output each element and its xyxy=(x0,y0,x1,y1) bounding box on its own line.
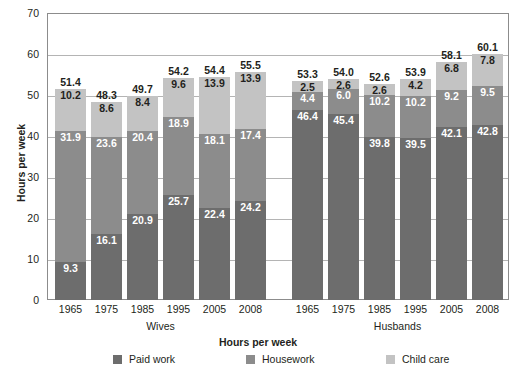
segment-housework: 20.4 xyxy=(127,131,158,215)
segment-value: 9.6 xyxy=(171,78,186,90)
segment-value: 10.2 xyxy=(60,89,80,101)
segment-child-care: 8.4 xyxy=(127,96,158,130)
segment-housework: 31.9 xyxy=(55,131,86,262)
legend-item-paid-work: Paid work xyxy=(113,353,175,365)
segment-value: 18.9 xyxy=(168,117,188,129)
segment-value: 13.9 xyxy=(240,72,260,84)
legend-label-child-care: Child care xyxy=(402,353,449,365)
segment-paid-work: 45.4 xyxy=(328,114,359,300)
bar-husbands-2008: 42.89.57.860.1 xyxy=(472,54,503,300)
segment-child-care: 13.9 xyxy=(199,77,230,134)
bar-total-label: 49.7 xyxy=(121,83,164,95)
segment-value: 25.7 xyxy=(168,195,188,207)
segment-paid-work: 20.9 xyxy=(127,214,158,300)
segment-value: 8.4 xyxy=(135,96,150,108)
legend: Paid work Housework Child care xyxy=(0,352,516,370)
segment-child-care: 7.8 xyxy=(472,54,503,86)
segment-value: 10.2 xyxy=(369,95,389,107)
segment-paid-work: 16.1 xyxy=(91,234,122,300)
segment-child-care: 10.2 xyxy=(55,89,86,131)
x-tick-wives-1985: 1985 xyxy=(124,303,161,315)
segment-value: 17.4 xyxy=(240,129,260,141)
bar-wives-1995: 25.718.99.654.2 xyxy=(163,78,194,300)
legend-item-housework: Housework xyxy=(246,353,315,365)
x-tick-wives-1965: 1965 xyxy=(52,303,89,315)
segment-housework: 6.0 xyxy=(328,89,359,114)
segment-paid-work: 42.8 xyxy=(472,125,503,300)
legend-label-paid-work: Paid work xyxy=(129,353,175,365)
legend-swatch-child-care xyxy=(386,355,395,364)
legend-swatch-paid-work xyxy=(113,355,122,364)
bar-wives-1965: 9.331.910.251.4 xyxy=(55,89,86,300)
segment-value: 7.8 xyxy=(480,54,495,66)
segment-child-care: 9.6 xyxy=(163,78,194,117)
legend-label-housework: Housework xyxy=(262,353,315,365)
segment-housework: 9.2 xyxy=(436,90,467,128)
x-tick-husbands-2005: 2005 xyxy=(433,303,470,315)
x-tick-husbands-1975: 1975 xyxy=(325,303,362,315)
segment-value: 2.5 xyxy=(300,81,315,93)
segment-value: 20.4 xyxy=(132,131,152,143)
chart-title: Hours per week xyxy=(0,336,516,348)
legend-swatch-housework xyxy=(246,355,255,364)
segment-paid-work: 39.5 xyxy=(400,138,431,300)
segment-value: 42.8 xyxy=(477,125,497,137)
segment-value: 45.4 xyxy=(333,114,353,126)
segment-value: 10.2 xyxy=(405,96,425,108)
bar-husbands-1975: 45.46.02.654.0 xyxy=(328,79,359,300)
group-label-husbands: Husbands xyxy=(282,320,513,332)
bar-wives-1975: 16.123.68.648.3 xyxy=(91,102,122,300)
x-tick-husbands-1965: 1965 xyxy=(289,303,326,315)
x-tick-husbands-1985: 1985 xyxy=(361,303,398,315)
x-tick-husbands-2008: 2008 xyxy=(469,303,506,315)
segment-child-care: 4.2 xyxy=(400,79,431,96)
segment-value: 8.6 xyxy=(99,102,114,114)
bar-husbands-2005: 42.19.26.858.1 xyxy=(436,62,467,300)
segment-housework: 10.2 xyxy=(400,96,431,138)
legend-item-child-care: Child care xyxy=(386,353,449,365)
segment-child-care: 2.6 xyxy=(328,79,359,90)
segment-paid-work: 46.4 xyxy=(292,110,323,300)
segment-value: 18.1 xyxy=(204,134,224,146)
segment-child-care: 8.6 xyxy=(91,102,122,137)
x-tick-husbands-1995: 1995 xyxy=(397,303,434,315)
segment-value: 39.8 xyxy=(369,137,389,149)
group-label-wives: Wives xyxy=(45,320,276,332)
segment-child-care: 13.9 xyxy=(235,72,266,129)
bar-total-label: 55.5 xyxy=(229,59,272,71)
x-tick-wives-1995: 1995 xyxy=(160,303,197,315)
segment-value: 16.1 xyxy=(96,234,116,246)
bar-wives-2005: 22.418.113.954.4 xyxy=(199,77,230,300)
segment-paid-work: 9.3 xyxy=(55,262,86,300)
x-tick-wives-1975: 1975 xyxy=(88,303,125,315)
x-tick-wives-2008: 2008 xyxy=(232,303,269,315)
bar-husbands-1995: 39.510.24.253.9 xyxy=(400,79,431,300)
segment-value: 6.8 xyxy=(444,62,459,74)
segment-value: 6.0 xyxy=(336,89,351,101)
segment-housework: 17.4 xyxy=(235,129,266,200)
segment-housework: 18.9 xyxy=(163,117,194,194)
segment-child-care: 2.5 xyxy=(292,81,323,91)
segment-value: 9.5 xyxy=(480,86,495,98)
segment-child-care: 2.6 xyxy=(364,84,395,95)
segment-value: 46.4 xyxy=(297,110,317,122)
segment-housework: 18.1 xyxy=(199,134,230,208)
stacked-bar-chart: 70 60 50 40 30 20 10 0 Hours per week 9.… xyxy=(0,0,516,373)
segment-value: 2.6 xyxy=(336,79,351,91)
segment-housework: 4.4 xyxy=(292,92,323,110)
segment-housework: 9.5 xyxy=(472,86,503,125)
segment-value: 42.1 xyxy=(441,127,461,139)
segment-value: 9.3 xyxy=(63,262,78,274)
segment-value: 22.4 xyxy=(204,208,224,220)
segment-value: 23.6 xyxy=(96,137,116,149)
segment-paid-work: 42.1 xyxy=(436,127,467,300)
segment-value: 13.9 xyxy=(204,77,224,89)
bar-total-label: 51.4 xyxy=(49,76,92,88)
bar-husbands-1985: 39.810.22.652.6 xyxy=(364,84,395,300)
bars-layer: 9.331.910.251.4196516.123.68.648.3197520… xyxy=(0,0,516,373)
bar-total-label: 60.1 xyxy=(466,41,509,53)
bar-wives-1985: 20.920.48.449.7 xyxy=(127,96,158,300)
segment-paid-work: 39.8 xyxy=(364,137,395,300)
segment-value: 31.9 xyxy=(60,131,80,143)
segment-value: 4.2 xyxy=(408,79,423,91)
